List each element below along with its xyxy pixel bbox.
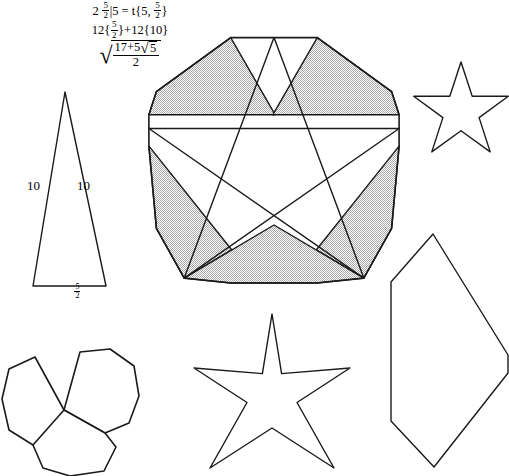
hexagonal-kite-figure: [391, 234, 508, 467]
five-pointed-star-small: [414, 62, 509, 152]
formula-fraction-2-denominator: 2: [154, 11, 161, 20]
three-heptagon-rosette-figure: [2, 349, 139, 476]
formula-twelve-a: 12{: [92, 23, 111, 37]
triangle-base-denominator: 2: [74, 292, 80, 300]
formula-inner-radicand: 5: [149, 41, 157, 56]
hexagonal-kite: [391, 234, 508, 467]
triangle-base-fraction: 5 2: [74, 283, 80, 300]
decagon-pentagram-figure: [149, 38, 399, 283]
formula-fraction-3-denominator: 2: [111, 31, 118, 40]
formula-fraction-1: 5 2: [102, 1, 109, 20]
formula-fraction-2: 5 2: [154, 1, 161, 20]
triangle-right-side-label: 10: [77, 178, 90, 194]
five-pointed-star-large-figure: [194, 314, 350, 468]
formula-big-fraction: 17+5√5 2: [113, 41, 159, 70]
five-pointed-star-large: [194, 314, 350, 468]
formula-line-2: 12{ 5 2 }+12{10}: [50, 20, 210, 39]
formula-line-1: 2 5 2 |5 = t{5, 5 2 }: [50, 1, 210, 20]
formula-big-fraction-denominator: 2: [113, 56, 159, 70]
figure-canvas: [0, 0, 509, 476]
formula-block: 2 5 2 |5 = t{5, 5 2 } 12{ 5 2 }+12{10} √…: [50, 1, 210, 70]
formula-num-prefix: 17+5: [114, 40, 140, 54]
inner-radical-icon: √: [140, 42, 149, 55]
formula-line-3: √ 17+5√5 2: [50, 40, 210, 70]
formula-fraction-3: 5 2: [111, 20, 118, 39]
shaded-region-top-right: [273, 38, 399, 115]
formula-t-open: t{5,: [132, 4, 151, 18]
triangle-left-side-label: 10: [27, 178, 40, 194]
triangle-base-label: 5 2: [74, 283, 81, 300]
formula-fraction-1-denominator: 2: [102, 11, 109, 20]
formula-lead: 2: [93, 4, 99, 18]
formula-five: 5: [112, 4, 118, 18]
formula-equals: =: [122, 4, 129, 18]
isosceles-triangle: [33, 92, 106, 286]
isosceles-triangle-figure: [33, 92, 106, 286]
formula-twelve-b: 12{10}: [131, 23, 168, 37]
formula-fraction-3-numerator: 5: [111, 20, 118, 30]
formula-inner-radical-expression: √5: [140, 41, 157, 56]
formula-big-fraction-numerator: 17+5√5: [113, 41, 159, 57]
formula-radicand: 17+5√5 2: [111, 40, 160, 70]
formula-t-close: }: [161, 4, 167, 18]
formula-radical-expression: √ 17+5√5 2: [99, 40, 160, 70]
five-pointed-star-small-figure: [414, 62, 509, 152]
